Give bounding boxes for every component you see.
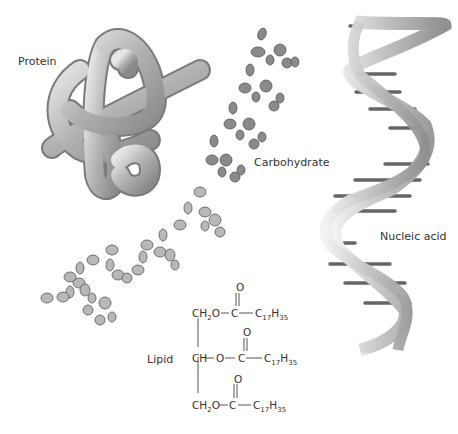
lipid-row-3-carbon: C [229, 399, 236, 411]
lipid-row-2-oxygen: O [216, 352, 224, 364]
carbonyl-oxygen-3: O [234, 373, 242, 385]
lipid-row-2-chain: C17H35 [264, 352, 297, 367]
lipid-row-2-left: CH [192, 352, 207, 364]
carbonyl-oxygen-1: O [236, 281, 244, 293]
lipid-row-1-left: CH2O [192, 307, 220, 322]
lipid-row-1-carbon: C [231, 307, 238, 319]
lipid-row-2-carbon: C [238, 352, 245, 364]
carbonyl-oxygen-2: O [243, 326, 251, 338]
lipid-formula: O CH2O C C17H35 O CH O C C17H35 O CH2O C… [0, 0, 458, 434]
lipid-row-1-chain: C17H35 [255, 307, 288, 322]
lipid-row-3-left: CH2O [192, 399, 220, 414]
lipid-row-3-chain: C17H35 [253, 399, 286, 414]
